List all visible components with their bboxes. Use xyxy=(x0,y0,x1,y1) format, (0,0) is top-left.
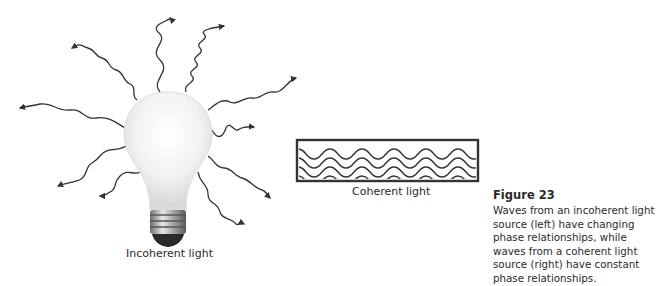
wave-ray xyxy=(208,156,270,198)
caption-text: Waves from an incoherent light source (l… xyxy=(493,204,658,286)
wave-ray xyxy=(58,146,126,186)
wave-ray xyxy=(20,104,125,128)
light-bulb-icon xyxy=(124,92,212,247)
wave-ray xyxy=(156,18,170,92)
wave-ray xyxy=(208,78,296,110)
figure-number: Figure 23 xyxy=(493,188,658,202)
coherent-light-label: Coherent light xyxy=(352,185,430,198)
wave-ray xyxy=(198,172,244,225)
wave-ray xyxy=(100,172,140,196)
figure-caption: Figure 23 Waves from an incoherent light… xyxy=(493,188,658,286)
wave-ray xyxy=(185,26,224,92)
incoherent-light-label: Incoherent light xyxy=(126,247,213,260)
wave-ray xyxy=(212,125,254,136)
coherent-light-box xyxy=(290,140,482,186)
wave-ray xyxy=(72,45,137,100)
